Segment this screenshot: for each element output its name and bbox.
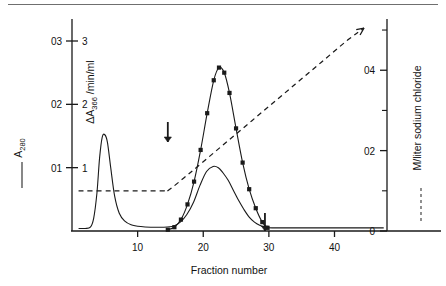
nacl-gradient-line: [79, 28, 364, 192]
activity-data-point: [199, 148, 203, 152]
activity-data-point: [227, 91, 231, 95]
elution-profile-chart: 1012023031020304000204 ΔA366 /min/mlA280…: [0, 0, 446, 286]
annotations-group: [164, 122, 268, 231]
activity-data-point: [172, 225, 176, 229]
activity-data-point: [260, 220, 264, 224]
activity-data-point: [254, 206, 258, 210]
left-outer-tick-label: 02: [51, 99, 63, 110]
left-outer-tick-label: 03: [51, 36, 63, 47]
activity-data-point: [241, 161, 245, 165]
left-inner-tick-label: 2: [82, 99, 88, 110]
activity-data-point: [217, 66, 221, 70]
activity-data-point: [185, 202, 189, 206]
activity-data-point: [179, 218, 183, 222]
left-outer-axis-title: A280: [12, 138, 27, 158]
activity-data-point: [234, 126, 238, 130]
enzyme-activity-series: [168, 67, 268, 229]
x-axis-tick-label: 10: [132, 242, 144, 253]
activity-data-point: [166, 228, 170, 232]
gradient-start-arrow-head: [164, 137, 171, 142]
x-axis-tick-label: 20: [198, 242, 210, 253]
left-outer-tick-label: 01: [51, 163, 63, 174]
activity-data-point: [247, 187, 251, 191]
right-axis-tick-label: 04: [364, 65, 376, 76]
activity-data-point: [205, 111, 209, 115]
right-axis-tick-label: 02: [364, 146, 376, 157]
activity-markers: [166, 66, 270, 232]
nacl-gradient-series: [79, 28, 364, 192]
left-inner-tick-label: 3: [82, 36, 88, 47]
left-inner-tick-label: 1: [82, 163, 88, 174]
x-axis-tick-label: 40: [329, 242, 341, 253]
a280-series: [79, 134, 384, 228]
activity-curve: [168, 67, 268, 229]
activity-data-point: [222, 71, 226, 75]
x-axis-tick-label: 30: [263, 242, 275, 253]
right-axis-title: M/liter sodium chloride: [411, 65, 423, 170]
gradient-arrowhead: [356, 28, 364, 35]
activity-data-point: [192, 180, 196, 184]
left-inner-axis-title: ΔA366 /min/ml: [84, 60, 99, 123]
chromatogram-figure: 1012023031020304000204 ΔA366 /min/mlA280…: [0, 0, 446, 286]
axes-group: 1012023031020304000204: [51, 19, 441, 253]
x-axis-title: Fraction number: [191, 264, 268, 276]
activity-data-point: [212, 78, 216, 82]
a280-curve: [79, 134, 384, 228]
